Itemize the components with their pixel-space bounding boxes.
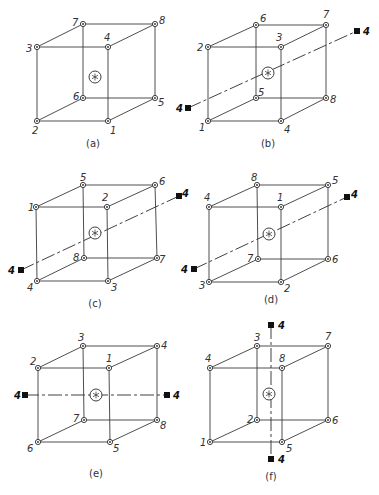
lattice-vertex: 7: [325, 331, 332, 349]
axis-marker: 4: [7, 265, 24, 276]
cube-edge: [83, 346, 84, 420]
lattice-vertex: 6: [73, 91, 86, 102]
center-atom-icon: [263, 228, 275, 240]
cube-panel-e: 4421563487(e): [13, 332, 180, 479]
vertex-label: 7: [73, 413, 80, 424]
square-marker-icon: [22, 392, 28, 398]
cube-panel-f: 4448513762(f): [200, 320, 338, 482]
lattice-vertex: 5: [152, 95, 164, 108]
square-marker-icon: [185, 105, 191, 111]
vertex-label: 2: [284, 283, 290, 294]
vertex-label: 6: [332, 415, 338, 426]
square-marker-icon: [191, 266, 197, 272]
cube-edge: [281, 98, 326, 121]
axis-label: 4: [181, 188, 189, 199]
vertex-label: 1: [277, 192, 283, 203]
square-marker-icon: [344, 194, 350, 200]
vertex-label: 8: [330, 94, 336, 105]
cube-edge: [281, 25, 326, 47]
lattice-vertex: 8: [152, 15, 165, 27]
panel-caption: (f): [265, 471, 276, 482]
lattice-vertex: 4: [104, 32, 111, 50]
lattice-vertex: 5: [107, 439, 119, 454]
vertex-label: 5: [258, 87, 264, 98]
vertex-label: 5: [286, 443, 292, 454]
vertex-label: 6: [332, 254, 338, 265]
lattice-vertex: 2: [30, 356, 41, 371]
axis-marker: 4: [344, 189, 358, 200]
lattice-vertex: 3: [26, 43, 40, 54]
lattice-vertex: 1: [199, 118, 211, 133]
vertex-label: 3: [26, 43, 32, 54]
axis-label: 4: [172, 390, 180, 401]
lattice-vertex: 5: [253, 87, 264, 101]
cube-edge: [208, 25, 256, 47]
lattice-vertex: 4: [204, 192, 212, 210]
vertex-label: 6: [260, 13, 266, 24]
lattice-vertex: 3: [254, 332, 260, 349]
cube-edge: [281, 259, 328, 282]
axis-label: 4: [180, 264, 188, 275]
axis-label: 4: [175, 103, 183, 114]
cube-panel-b: 4423416785(b): [175, 9, 370, 149]
panel-caption: (a): [86, 138, 100, 149]
cube-edge: [110, 420, 157, 442]
lattice-vertex: 1: [200, 437, 213, 448]
square-marker-icon: [354, 28, 360, 34]
cube-edge: [108, 98, 155, 121]
lattice-vertex: 7: [323, 9, 330, 28]
axis-marker: 4: [176, 188, 189, 199]
cube-edge: [107, 207, 108, 281]
vertex-label: 5: [158, 97, 164, 108]
panel-caption: (e): [89, 468, 103, 479]
vertex-label: 7: [72, 17, 79, 28]
lattice-vertex: 6: [27, 439, 41, 454]
cube-edge: [281, 185, 328, 207]
center-atom-icon: [263, 388, 275, 400]
cube-edge: [36, 207, 37, 281]
vertex-label: 8: [279, 353, 285, 364]
lattice-vertex: 2: [32, 118, 40, 136]
axis-marker: 4: [354, 26, 370, 37]
vertex-label: 7: [325, 331, 332, 342]
vertex-label: 3: [254, 332, 260, 343]
vertex-label: 4: [204, 192, 210, 203]
cube-edge: [282, 346, 328, 368]
cube-edge: [208, 98, 256, 121]
lattice-vertex: 4: [27, 278, 40, 293]
square-marker-icon: [268, 322, 274, 328]
lattice-vertex: 3: [78, 332, 86, 349]
lattice-vertex: 4: [278, 118, 290, 135]
square-marker-icon: [164, 392, 170, 398]
lattice-vertex: 3: [199, 279, 212, 291]
vertex-label: 2: [197, 42, 203, 53]
panel-caption: (d): [264, 294, 278, 305]
lattice-vertex: 2: [278, 279, 290, 294]
lattice-vertex: 4: [205, 353, 213, 371]
vertex-label: 6: [27, 443, 33, 454]
lattice-vertex: 5: [80, 172, 86, 188]
lattice-vertex: 5: [279, 439, 292, 454]
vertex-label: 1: [110, 125, 116, 136]
vertex-label: 3: [111, 282, 117, 293]
lattice-vertex: 1: [28, 202, 39, 213]
vertex-label: 6: [73, 91, 79, 102]
vertex-label: 2: [30, 356, 36, 367]
center-atom-icon: [262, 67, 274, 79]
vertex-label: 7: [323, 9, 330, 20]
vertex-label: 7: [159, 254, 166, 265]
lattice-vertex: 8: [251, 172, 260, 188]
vertex-label: 5: [332, 175, 338, 186]
figure-canvas: 34127856(a)4423416785(b)4412345678(c)444…: [0, 0, 379, 495]
cube-orientation-figure: 34127856(a)4423416785(b)4412345678(c)444…: [0, 0, 379, 495]
cube-edge: [209, 185, 257, 207]
vertex-label: 8: [251, 172, 257, 183]
vertex-label: 4: [205, 353, 211, 364]
vertex-label: 8: [159, 15, 165, 26]
vertex-label: 2: [32, 125, 38, 136]
center-atom-icon: [90, 389, 102, 401]
axis-label: 4: [350, 189, 358, 200]
cube-edge: [108, 258, 157, 281]
panel-caption: (b): [261, 138, 275, 149]
vertex-label: 5: [113, 443, 119, 454]
